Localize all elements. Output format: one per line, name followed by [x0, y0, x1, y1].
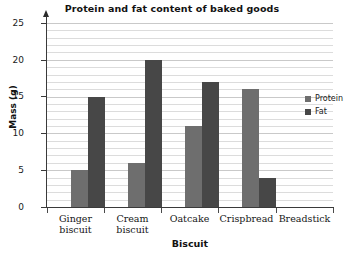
- gridline-minor: [47, 45, 333, 46]
- y-axis-line: [46, 16, 47, 208]
- gridline-25: [47, 23, 333, 24]
- x-category-label-line1: Breadstick: [279, 213, 331, 224]
- x-category-label-cream-biscuit: Cream biscuit: [104, 213, 161, 235]
- x-axis-label: Biscuit: [47, 238, 333, 249]
- bar-protein-crispbread: [242, 89, 259, 207]
- gridline-minor: [47, 67, 333, 68]
- x-category-label-oatcake: Oatcake: [161, 213, 218, 224]
- x-category-label-line2: biscuit: [47, 224, 104, 235]
- bar-fat-ginger-biscuit: [88, 97, 105, 207]
- x-category-label-breadstick: Breadstick: [274, 213, 335, 224]
- x-category-label-line1: Ginger: [59, 213, 92, 224]
- chart-title: Protein and fat content of baked goods: [47, 3, 297, 14]
- legend-swatch-fat-icon: [305, 109, 311, 115]
- gridline-20: [47, 60, 333, 61]
- gridline-minor: [47, 89, 333, 90]
- bar-protein-cream-biscuit: [128, 163, 145, 207]
- x-category-label-line1: Oatcake: [170, 213, 210, 224]
- gridline-minor: [47, 30, 333, 31]
- y-tick-label: 15: [2, 92, 24, 101]
- legend-label-protein: Protein: [315, 94, 343, 103]
- bar-fat-crispbread: [259, 178, 276, 207]
- x-category-label-line2: biscuit: [104, 224, 161, 235]
- chart-legend: Protein Fat: [305, 92, 343, 118]
- gridline-minor: [47, 75, 333, 76]
- y-tick-labels: 25 20 15 10 5 0: [0, 0, 40, 261]
- x-axis-line: [46, 207, 334, 208]
- legend-swatch-protein-icon: [305, 96, 311, 102]
- gridline-minor: [47, 52, 333, 53]
- y-tick-label: 5: [2, 166, 24, 175]
- x-category-label-line1: Crispbread: [220, 213, 274, 224]
- legend-item-protein: Protein: [305, 92, 343, 105]
- x-category-label-ginger-biscuit: Ginger biscuit: [47, 213, 104, 235]
- gridline-minor: [47, 82, 333, 83]
- legend-label-fat: Fat: [315, 107, 327, 116]
- y-tick-label: 10: [2, 129, 24, 138]
- bar-fat-oatcake: [202, 82, 219, 207]
- bar-fat-cream-biscuit: [145, 60, 162, 207]
- y-tick-label: 25: [2, 19, 24, 28]
- legend-item-fat: Fat: [305, 105, 343, 118]
- bar-protein-oatcake: [185, 126, 202, 207]
- bar-chart: Protein and fat content of baked goods M…: [0, 0, 357, 261]
- plot-area: [47, 23, 333, 207]
- bar-protein-ginger-biscuit: [71, 170, 88, 207]
- x-category-label-line1: Cream: [116, 213, 148, 224]
- gridline-minor: [47, 38, 333, 39]
- y-tick-label: 0: [2, 203, 24, 212]
- y-tick-label: 20: [2, 56, 24, 65]
- x-category-label-crispbread: Crispbread: [216, 213, 277, 224]
